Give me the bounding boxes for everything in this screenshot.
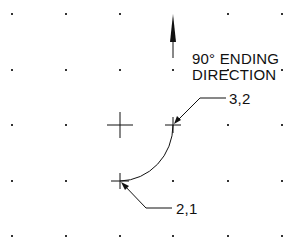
grid-dot: [172, 235, 174, 237]
grid-dot: [65, 124, 67, 126]
grid-dot: [281, 124, 283, 126]
grid-dot: [227, 235, 229, 237]
end-point-label: 3,2: [229, 90, 250, 107]
grid-dot: [172, 180, 174, 182]
grid-dot: [172, 69, 174, 71]
grid-dot: [227, 124, 229, 126]
start-point-label: 2,1: [176, 200, 197, 217]
grid-dot: [11, 69, 13, 71]
grid-dot: [65, 13, 67, 15]
grid-dot: [11, 180, 13, 182]
grid-dot: [11, 235, 13, 237]
grid-dots: [11, 13, 283, 237]
direction-title-line2: DIRECTION: [192, 66, 276, 83]
grid-dot: [119, 235, 121, 237]
grid-dot: [227, 13, 229, 15]
center-marker-icon: [107, 112, 133, 138]
grid-dot: [65, 180, 67, 182]
grid-dot: [281, 180, 283, 182]
arc-path: [120, 125, 173, 181]
grid-dot: [11, 13, 13, 15]
grid-dot: [119, 13, 121, 15]
direction-arrow-icon: [170, 14, 176, 58]
direction-title-line1: 90° ENDING: [192, 50, 279, 67]
grid-dot: [281, 13, 283, 15]
grid-dot: [11, 124, 13, 126]
grid-dot: [227, 180, 229, 182]
start-point-leader: [121, 182, 172, 208]
end-point-leader: [174, 98, 226, 124]
grid-dot: [281, 69, 283, 71]
grid-dot: [65, 69, 67, 71]
grid-dot: [281, 235, 283, 237]
grid-dot: [65, 235, 67, 237]
grid-dot: [119, 69, 121, 71]
arc-direction-diagram: 3,2 2,1 90° ENDING DIRECTION: [0, 0, 292, 242]
